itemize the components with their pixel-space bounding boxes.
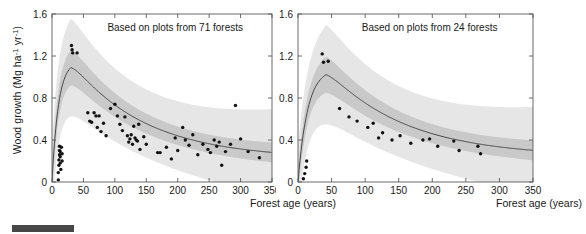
caption-text: [80, 224, 542, 233]
caption-color-bar: [12, 225, 74, 232]
chart-panel-right: 05010015020025030035000.40.81.21.6Based …: [276, 0, 552, 214]
svg-text:300: 300: [491, 185, 508, 196]
svg-text:350: 350: [264, 185, 276, 196]
svg-text:0.8: 0.8: [279, 93, 293, 104]
svg-text:1.6: 1.6: [279, 9, 293, 20]
svg-text:50: 50: [326, 185, 338, 196]
svg-text:0.4: 0.4: [33, 135, 47, 146]
svg-text:100: 100: [107, 185, 124, 196]
svg-text:1.2: 1.2: [33, 51, 47, 62]
svg-text:100: 100: [357, 185, 374, 196]
svg-text:200: 200: [424, 185, 441, 196]
svg-text:250: 250: [201, 185, 218, 196]
svg-text:0: 0: [295, 185, 301, 196]
plot-area-left: 05010015020025030035000.40.81.21.6Based …: [0, 0, 276, 200]
chart-panel-left: Wood growth (Mg ha-1 yr-1) 0501001502002…: [0, 0, 276, 214]
svg-text:150: 150: [138, 185, 155, 196]
plot-area-right: 05010015020025030035000.40.81.21.6Based …: [276, 0, 552, 200]
svg-text:250: 250: [458, 185, 475, 196]
svg-text:Based on plots from 71 forests: Based on plots from 71 forests: [107, 22, 243, 33]
svg-text:0.8: 0.8: [33, 93, 47, 104]
svg-text:0: 0: [41, 177, 47, 188]
svg-text:Based on plots from 24 forests: Based on plots from 24 forests: [362, 22, 498, 33]
svg-text:350: 350: [525, 185, 542, 196]
svg-text:300: 300: [232, 185, 249, 196]
svg-text:1.2: 1.2: [279, 51, 293, 62]
svg-text:200: 200: [169, 185, 186, 196]
svg-text:50: 50: [78, 185, 90, 196]
svg-text:1.6: 1.6: [33, 9, 47, 20]
svg-text:0: 0: [287, 177, 293, 188]
svg-text:0.4: 0.4: [279, 135, 293, 146]
svg-text:150: 150: [390, 185, 407, 196]
svg-text:0: 0: [49, 185, 55, 196]
x-axis-label-right: Forest age (years): [298, 197, 586, 209]
